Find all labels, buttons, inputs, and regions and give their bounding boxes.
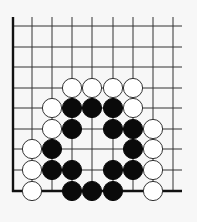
- black-stone: [82, 181, 101, 200]
- white-stone: [42, 98, 61, 117]
- white-stone: [22, 139, 41, 158]
- black-stone: [82, 98, 101, 117]
- white-stone: [143, 139, 162, 158]
- white-stone: [42, 119, 61, 138]
- white-stone: [143, 160, 162, 179]
- white-stone: [123, 98, 142, 117]
- white-stone: [143, 181, 162, 200]
- black-stone: [123, 160, 142, 179]
- white-stone: [123, 78, 142, 97]
- black-stone: [123, 139, 142, 158]
- black-stone: [42, 160, 61, 179]
- black-stone: [62, 160, 81, 179]
- white-stone: [62, 78, 81, 97]
- black-stone: [123, 119, 142, 138]
- white-stone: [22, 181, 41, 200]
- white-stone: [143, 119, 162, 138]
- white-stone: [22, 160, 41, 179]
- black-stone: [103, 160, 122, 179]
- black-stone: [103, 98, 122, 117]
- black-stone: [103, 181, 122, 200]
- black-stone: [62, 181, 81, 200]
- black-stone: [62, 119, 81, 138]
- black-stone: [62, 98, 81, 117]
- black-stone: [42, 139, 61, 158]
- black-stone: [103, 119, 122, 138]
- white-stone: [82, 78, 101, 97]
- go-board: [0, 0, 197, 222]
- white-stone: [103, 78, 122, 97]
